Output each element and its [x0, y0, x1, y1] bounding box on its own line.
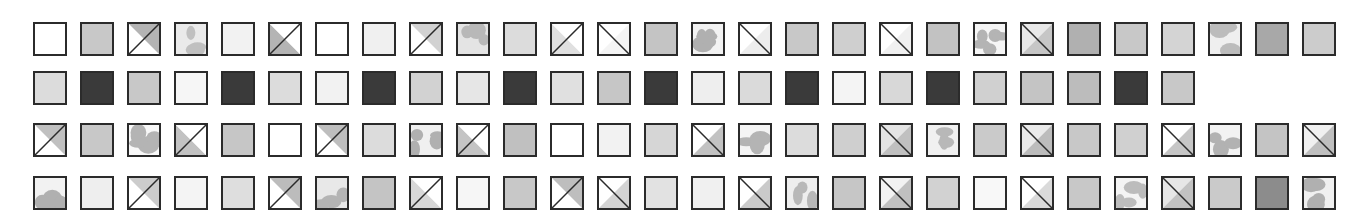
tile-r1-c22-diag-down: [1020, 22, 1054, 56]
tile-r4-c24-blob: [1114, 176, 1148, 210]
tile-r3-c28-diag-down: [1302, 123, 1336, 157]
tile-r1-c28-solid: [1302, 22, 1336, 56]
tile-r2-c25-solid: [1161, 71, 1195, 105]
tile-r2-c16-solid: [738, 71, 772, 105]
tile-r3-c24-solid: [1114, 123, 1148, 157]
tile-r1-c24-solid: [1114, 22, 1148, 56]
tile-r1-c26-blob: [1208, 22, 1242, 56]
tile-r4-c22-diag-down: [1020, 176, 1054, 210]
tile-r4-c10-solid: [456, 176, 490, 210]
tile-r1-c4-blob: [174, 22, 208, 56]
tile-r1-c5-solid: [221, 22, 255, 56]
tile-r3-c22-diag-down: [1020, 123, 1054, 157]
tile-r4-c7-blob: [315, 176, 349, 210]
tile-r2-c22-solid: [1020, 71, 1054, 105]
tile-r4-c2-solid: [80, 176, 114, 210]
tile-r2-c20-solid: [926, 71, 960, 105]
tile-r4-c6-diag-up: [268, 176, 302, 210]
tile-r3-c23-solid: [1067, 123, 1101, 157]
tile-r3-c3-blob: [127, 123, 161, 157]
tile-r4-c14-solid: [644, 176, 678, 210]
tile-r2-c8-solid: [362, 71, 396, 105]
tile-r1-c16-diag-down: [738, 22, 772, 56]
tile-r4-c15-solid: [691, 176, 725, 210]
tile-r2-c6-solid: [268, 71, 302, 105]
tile-r2-c3-solid: [127, 71, 161, 105]
tile-r4-c12-diag-up: [550, 176, 584, 210]
tile-r2-c24-solid: [1114, 71, 1148, 105]
tile-r2-c4-solid: [174, 71, 208, 105]
tile-r1-c8-solid: [362, 22, 396, 56]
tile-r2-c7-solid: [315, 71, 349, 105]
tile-r3-c15-diag-down: [691, 123, 725, 157]
tile-r4-c16-diag-down: [738, 176, 772, 210]
tile-r2-c12-solid: [550, 71, 584, 105]
tile-r4-c18-solid: [832, 176, 866, 210]
tile-r4-c17-blob: [785, 176, 819, 210]
tile-r3-c4-diag-up: [174, 123, 208, 157]
tile-r3-c19-diag-down: [879, 123, 913, 157]
tile-r3-c18-solid: [832, 123, 866, 157]
tile-r4-c26-solid: [1208, 176, 1242, 210]
tile-r3-c1-diag-up: [33, 123, 67, 157]
tile-r1-c7-solid: [315, 22, 349, 56]
tile-r3-c8-solid: [362, 123, 396, 157]
tile-r4-c5-solid: [221, 176, 255, 210]
tile-r4-c28-blob: [1302, 176, 1336, 210]
tile-r2-c21-solid: [973, 71, 1007, 105]
tile-r1-c2-solid: [80, 22, 114, 56]
tile-r3-c10-diag-up: [456, 123, 490, 157]
tile-r1-c1-solid: [33, 22, 67, 56]
tile-r3-c13-solid: [597, 123, 631, 157]
tile-r1-c10-blob: [456, 22, 490, 56]
tile-r2-c17-solid: [785, 71, 819, 105]
tile-r4-c27-solid: [1255, 176, 1289, 210]
tile-r4-c3-diag-up: [127, 176, 161, 210]
tile-r1-c12-diag-up: [550, 22, 584, 56]
tile-r3-c11-solid: [503, 123, 537, 157]
tile-r2-c23-solid: [1067, 71, 1101, 105]
tile-r1-c27-solid: [1255, 22, 1289, 56]
tile-r4-c9-diag-up: [409, 176, 443, 210]
tile-r3-c27-solid: [1255, 123, 1289, 157]
tile-r3-c14-solid: [644, 123, 678, 157]
tile-r1-c13-diag-down: [597, 22, 631, 56]
tile-r3-c25-diag-down: [1161, 123, 1195, 157]
tile-r3-c17-solid: [785, 123, 819, 157]
tile-r1-c11-solid: [503, 22, 537, 56]
tile-r3-c9-blob: [409, 123, 443, 157]
tile-r4-c20-solid: [926, 176, 960, 210]
tile-r3-c7-diag-up: [315, 123, 349, 157]
tile-r1-c17-solid: [785, 22, 819, 56]
tile-r2-c18-solid: [832, 71, 866, 105]
tile-r1-c14-solid: [644, 22, 678, 56]
tile-r3-c5-solid: [221, 123, 255, 157]
tile-r1-c6-diag-up: [268, 22, 302, 56]
tile-r4-c21-solid: [973, 176, 1007, 210]
tile-r4-c4-solid: [174, 176, 208, 210]
tile-r1-c15-blob: [691, 22, 725, 56]
tile-r1-c23-solid: [1067, 22, 1101, 56]
tile-r1-c3-diag-up: [127, 22, 161, 56]
tile-r1-c19-diag-down: [879, 22, 913, 56]
tile-r4-c1-blob: [33, 176, 67, 210]
tile-grid-canvas: [0, 0, 1351, 220]
tile-r3-c20-blob: [926, 123, 960, 157]
tile-r1-c9-diag-up: [409, 22, 443, 56]
tile-r1-c25-solid: [1161, 22, 1195, 56]
tile-r2-c2-solid: [80, 71, 114, 105]
tile-r4-c8-solid: [362, 176, 396, 210]
tile-r3-c12-solid: [550, 123, 584, 157]
tile-r3-c16-blob: [738, 123, 772, 157]
tile-r3-c2-solid: [80, 123, 114, 157]
tile-r2-c9-solid: [409, 71, 443, 105]
tile-r2-c5-solid: [221, 71, 255, 105]
tile-r2-c10-solid: [456, 71, 490, 105]
tile-r2-c19-solid: [879, 71, 913, 105]
tile-r3-c26-blob: [1208, 123, 1242, 157]
tile-r4-c11-solid: [503, 176, 537, 210]
tile-r2-c11-solid: [503, 71, 537, 105]
tile-r1-c21-blob: [973, 22, 1007, 56]
tile-r4-c19-diag-down: [879, 176, 913, 210]
tile-r3-c6-solid: [268, 123, 302, 157]
